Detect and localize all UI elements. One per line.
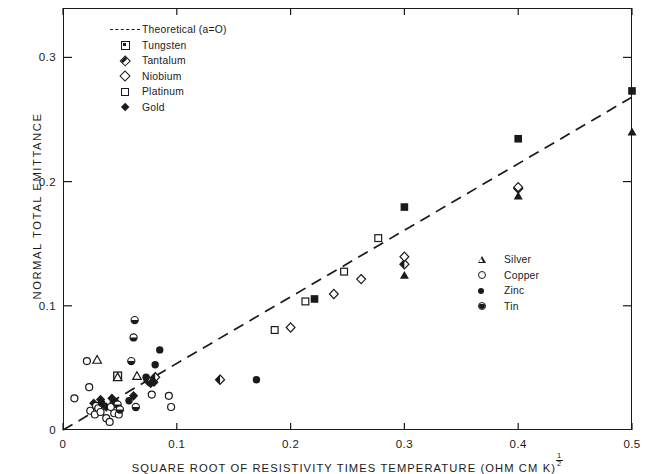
data-point-copper bbox=[168, 404, 175, 411]
data-point-zinc bbox=[125, 397, 132, 404]
filled-circle-icon bbox=[478, 288, 504, 294]
open-diamond-glyph bbox=[119, 71, 130, 82]
data-point-niobium bbox=[400, 252, 409, 261]
legend-item-gold: Gold bbox=[108, 100, 227, 116]
half-diamond-glyph bbox=[119, 55, 131, 67]
data-point-tantalum bbox=[216, 375, 225, 384]
legend-item-label: Tin bbox=[504, 301, 519, 312]
legend-item-copper: Copper bbox=[478, 268, 539, 284]
open-triangle-icon bbox=[478, 256, 504, 263]
legend-item-label: Gold bbox=[142, 102, 165, 113]
data-point-zinc bbox=[151, 361, 158, 368]
data-point-silver bbox=[400, 271, 409, 279]
data-point-unlabeled-filled-squares bbox=[628, 87, 636, 95]
data-point-niobium bbox=[286, 323, 295, 332]
legend-item-zinc: Zinc bbox=[478, 283, 539, 299]
data-point-platinum bbox=[302, 298, 309, 305]
legend-metals: SilverCopperZincTin bbox=[478, 252, 539, 314]
data-point-silver bbox=[93, 356, 102, 364]
data-point-tin bbox=[132, 403, 139, 410]
legend-item-label: Tungsten bbox=[142, 40, 187, 51]
data-point-copper bbox=[86, 384, 93, 391]
legend-item-label: Tantalum bbox=[142, 55, 186, 66]
open-circle-icon bbox=[478, 271, 504, 279]
legend-item-tantalum: Tantalum bbox=[108, 53, 227, 69]
x-tick-label: 0 bbox=[60, 438, 67, 450]
x-axis-exponent: 12 bbox=[556, 453, 563, 468]
data-point-tin bbox=[130, 334, 137, 341]
data-marker-layer bbox=[71, 87, 637, 425]
data-point-platinum bbox=[341, 268, 348, 275]
data-point-copper bbox=[83, 358, 90, 365]
data-point-zinc bbox=[156, 346, 163, 353]
data-point-zinc bbox=[142, 374, 149, 381]
legend-item-label: Silver bbox=[504, 254, 531, 265]
x-tick-label: 0.2 bbox=[282, 438, 299, 450]
legend-item-niobium: Niobium bbox=[108, 69, 227, 85]
data-point-copper bbox=[165, 392, 172, 399]
legend-item-label: Platinum bbox=[142, 86, 184, 97]
x-axis-exponent-denominator: 2 bbox=[556, 461, 563, 468]
data-point-unlabeled-filled-squares bbox=[401, 203, 409, 211]
legend-item-silver: Silver bbox=[478, 252, 539, 268]
half-circle-glyph bbox=[478, 302, 486, 310]
data-point-unlabeled-filled-squares bbox=[311, 295, 319, 303]
x-tick-label: 0.5 bbox=[623, 438, 640, 450]
data-point-tin bbox=[131, 316, 138, 323]
legend-item-tungsten: Tungsten bbox=[108, 38, 227, 54]
data-point-unlabeled-filled-squares bbox=[514, 135, 522, 143]
data-point-platinum bbox=[271, 327, 278, 334]
dashed-line-glyph bbox=[110, 29, 140, 30]
open-square-icon bbox=[108, 88, 142, 96]
open-diamond-icon bbox=[108, 72, 142, 80]
filled-circle-glyph bbox=[478, 288, 484, 294]
filled-diamond-icon bbox=[108, 104, 142, 110]
x-tick-label: 0.1 bbox=[168, 438, 185, 450]
data-point-zinc bbox=[98, 400, 105, 407]
open-square-glyph bbox=[121, 88, 129, 96]
data-point-copper bbox=[71, 395, 78, 402]
legend-item-tin: Tin bbox=[478, 299, 539, 315]
data-point-zinc bbox=[253, 376, 260, 383]
open-circle-glyph bbox=[478, 271, 486, 279]
data-point-silver bbox=[628, 128, 637, 136]
legend-item-theoretical-a-o: Theoretical (a=O) bbox=[108, 22, 227, 38]
filled-diamond-glyph bbox=[120, 103, 129, 112]
x-axis-title: SQUARE ROOT OF RESISTIVITY TIMES TEMPERA… bbox=[63, 455, 632, 474]
y-origin-label: 0 bbox=[49, 424, 56, 436]
legend-item-label: Zinc bbox=[504, 285, 524, 296]
y-tick-label: 0.3 bbox=[39, 51, 56, 63]
x-tick-label: 0.3 bbox=[396, 438, 413, 450]
data-point-copper bbox=[106, 418, 113, 425]
data-point-silver bbox=[514, 191, 523, 199]
x-axis-title-text: SQUARE ROOT OF RESISTIVITY TIMES TEMPERA… bbox=[132, 462, 556, 474]
data-point-tin bbox=[128, 357, 135, 364]
x-tick-label: 0.4 bbox=[510, 438, 527, 450]
data-point-tin bbox=[116, 406, 123, 413]
center-square-icon bbox=[108, 41, 142, 50]
legend-item-label: Niobium bbox=[142, 71, 182, 82]
data-point-copper bbox=[97, 408, 104, 415]
y-axis-title: NORMAL TOTAL EMITTANCE bbox=[31, 91, 43, 321]
center-square-glyph bbox=[121, 41, 130, 50]
data-point-niobium bbox=[329, 289, 338, 298]
legend-item-label: Copper bbox=[504, 270, 539, 281]
legend-item-label: Theoretical (a=O) bbox=[142, 24, 227, 35]
open-triangle-glyph bbox=[478, 256, 486, 263]
legend-materials: Theoretical (a=O)TungstenTantalumNiobium… bbox=[108, 22, 227, 115]
half-circle-icon bbox=[478, 302, 504, 310]
data-point-copper bbox=[148, 391, 155, 398]
data-point-platinum bbox=[375, 235, 382, 242]
dashed-line-icon bbox=[108, 29, 142, 30]
legend-item-platinum: Platinum bbox=[108, 84, 227, 100]
data-point-niobium bbox=[357, 274, 366, 283]
half-diamond-icon bbox=[108, 57, 142, 65]
data-point-silver bbox=[133, 372, 142, 380]
